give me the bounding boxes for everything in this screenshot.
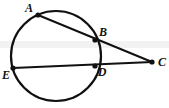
point-label-c: C: [158, 56, 166, 68]
geometry-figure: A B C D E: [0, 0, 169, 108]
point-label-e: E: [2, 69, 10, 81]
point-label-d: D: [98, 66, 107, 78]
point-marker-b: [92, 37, 97, 42]
secant-line-ec: [13, 62, 152, 68]
point-marker-e: [10, 65, 15, 70]
figure-canvas: [0, 0, 169, 108]
circle-shape: [11, 11, 101, 101]
point-label-b: B: [99, 26, 107, 38]
point-marker-c: [149, 59, 154, 64]
point-label-a: A: [25, 2, 33, 14]
point-marker-a: [35, 12, 40, 17]
